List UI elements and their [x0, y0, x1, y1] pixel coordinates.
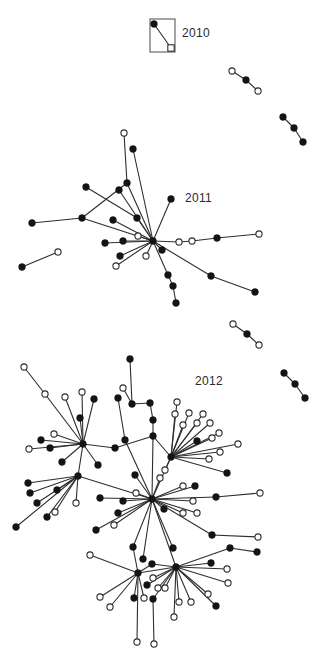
network-figure: 2010 2011 2012	[0, 0, 327, 666]
node-filled	[117, 253, 124, 260]
node-open	[235, 441, 241, 447]
node-filled	[27, 490, 34, 497]
node-open	[107, 604, 113, 610]
node-filled	[170, 545, 177, 552]
node-filled	[168, 196, 175, 203]
node-filled	[91, 396, 98, 403]
edge	[152, 497, 216, 499]
edge	[153, 241, 179, 242]
node-open	[162, 585, 168, 591]
node-filled	[291, 125, 298, 132]
node-open	[186, 410, 192, 416]
node-open	[176, 239, 182, 245]
node-open	[55, 249, 61, 255]
node-filled	[147, 400, 154, 407]
edge	[76, 476, 78, 503]
node-filled	[131, 595, 138, 602]
node-filled	[151, 21, 158, 28]
edge	[100, 498, 152, 499]
node-open	[180, 422, 186, 428]
node-filled	[120, 498, 127, 505]
node-filled	[19, 264, 26, 271]
node-filled	[150, 433, 157, 440]
node-filled	[224, 470, 231, 477]
label-2012: 2012	[195, 374, 223, 388]
node-open	[180, 510, 186, 516]
node-open	[21, 364, 27, 370]
node-filled	[161, 506, 168, 513]
edge	[118, 398, 125, 440]
edge	[153, 436, 171, 457]
node-open	[135, 233, 141, 239]
node-open-square	[168, 45, 174, 51]
edge	[83, 399, 94, 444]
node-open	[155, 585, 161, 591]
node-open	[113, 263, 119, 269]
node-open	[150, 575, 156, 581]
node-filled	[150, 596, 157, 603]
node-open	[206, 456, 212, 462]
node-open	[172, 411, 178, 417]
node-open	[121, 130, 127, 136]
node-open	[224, 566, 230, 572]
node-open	[42, 391, 48, 397]
node-filled	[25, 480, 32, 487]
node-filled	[77, 415, 84, 422]
node-open	[73, 500, 79, 506]
node-open	[180, 483, 186, 489]
node-open	[225, 580, 231, 586]
node-filled	[54, 487, 61, 494]
node-filled	[47, 445, 54, 452]
node-filled	[130, 146, 137, 153]
node-open	[134, 639, 140, 645]
node-filled	[59, 459, 66, 466]
node-filled	[159, 247, 166, 254]
node-filled	[281, 370, 288, 377]
edge	[176, 567, 227, 569]
node-filled	[144, 582, 151, 589]
node-filled	[34, 500, 41, 507]
node-filled	[13, 524, 20, 531]
node-open	[162, 467, 168, 473]
edge	[115, 436, 153, 448]
edge	[130, 359, 132, 404]
edge	[138, 573, 144, 598]
node-open	[194, 420, 200, 426]
node-filled	[170, 283, 177, 290]
node-open	[79, 389, 85, 395]
node-open	[200, 411, 206, 417]
edge	[152, 436, 153, 499]
node-filled	[208, 560, 215, 567]
edge	[192, 238, 217, 241]
edge	[153, 241, 211, 276]
node-filled	[150, 417, 157, 424]
node-open	[255, 534, 261, 540]
node-filled	[192, 483, 199, 490]
node-filled	[120, 238, 127, 245]
edge	[24, 367, 45, 394]
node-open	[209, 435, 215, 441]
node-filled	[214, 235, 221, 242]
node-filled	[194, 438, 201, 445]
node-open	[256, 342, 262, 348]
node-filled	[292, 381, 299, 388]
node-filled	[132, 472, 139, 479]
edge	[32, 218, 82, 223]
edge	[100, 573, 138, 597]
node-filled	[38, 437, 45, 444]
node-filled	[135, 570, 142, 577]
node-open	[133, 490, 139, 496]
node-filled	[115, 395, 122, 402]
node-open	[190, 498, 196, 504]
node-open	[151, 641, 157, 647]
node-filled	[213, 494, 220, 501]
node-filled	[110, 217, 117, 224]
edge	[22, 252, 58, 267]
edge	[230, 548, 257, 552]
node-open	[205, 591, 211, 597]
node-open	[141, 595, 147, 601]
label-2010: 2010	[182, 26, 210, 40]
edge	[212, 535, 258, 537]
node-filled	[244, 331, 251, 338]
edge	[86, 187, 137, 218]
